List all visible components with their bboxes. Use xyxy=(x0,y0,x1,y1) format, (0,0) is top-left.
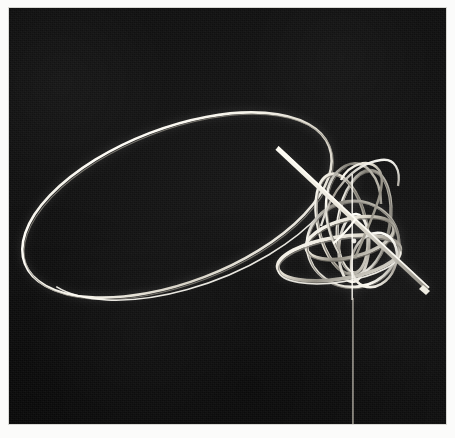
sphere-centre-node xyxy=(352,239,357,244)
sculpture-artwork xyxy=(9,8,446,424)
vertical-axis-rod xyxy=(352,174,354,300)
print-page xyxy=(0,0,455,438)
photograph xyxy=(9,8,446,424)
support-stem xyxy=(353,298,354,424)
large-orbit-ring xyxy=(9,75,359,337)
